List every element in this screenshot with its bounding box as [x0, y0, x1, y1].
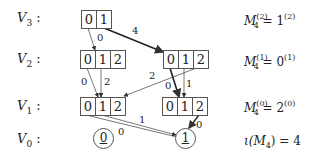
- level-label-v0: V0 :: [17, 131, 41, 149]
- cell: 2: [193, 98, 207, 115]
- level-label-v2: V2 :: [17, 51, 41, 69]
- cell: 2: [194, 51, 208, 68]
- cell: 2: [111, 51, 125, 68]
- cell: 0: [164, 51, 179, 68]
- node-v1-right: 0 1 2: [162, 97, 208, 116]
- edge-label: 2: [149, 70, 155, 81]
- equation-m4-0: M(0)4 = 2(0): [244, 99, 295, 117]
- node-v3: 0 1: [81, 10, 112, 29]
- edge-v3-0: [88, 28, 95, 50]
- node-v1-left: 0 1 2: [80, 97, 126, 116]
- node-v0-left: 0: [93, 128, 114, 149]
- cell: 1: [96, 51, 111, 68]
- cell: 0: [82, 11, 97, 28]
- level-label-v1: V1 :: [17, 98, 41, 116]
- level-label-v3: V3 :: [17, 10, 41, 28]
- edge-label: 0: [97, 32, 103, 43]
- node-v0-right: 1: [175, 128, 196, 149]
- edge-label: 2: [104, 76, 110, 87]
- cell: 0: [81, 51, 96, 68]
- cell: 1: [178, 98, 193, 115]
- cell: 0: [163, 98, 178, 115]
- node-v2-right: 0 1 2: [163, 50, 209, 69]
- edge-label: 0: [196, 119, 202, 130]
- cell: 2: [111, 98, 125, 115]
- edge-label: 0: [81, 76, 87, 87]
- cell: 1: [179, 51, 194, 68]
- edge-label: 4: [132, 25, 138, 36]
- equation-m4-2: M(2)4 = 1(2): [244, 12, 295, 30]
- edge-label: 1: [186, 78, 192, 89]
- edge-label: 1: [139, 114, 145, 125]
- cell: 1: [96, 98, 111, 115]
- edge-v2l-0: [87, 68, 98, 97]
- cell: 1: [97, 11, 111, 28]
- node-v2-left: 0 1 2: [80, 50, 126, 69]
- equation-iota: ι(M4) = 4: [244, 134, 301, 150]
- edge-label: 0: [118, 126, 124, 137]
- edge-label: 0: [165, 80, 171, 91]
- cell: 0: [81, 98, 96, 115]
- equation-m4-1: M(1)4 = 0(1): [244, 53, 295, 71]
